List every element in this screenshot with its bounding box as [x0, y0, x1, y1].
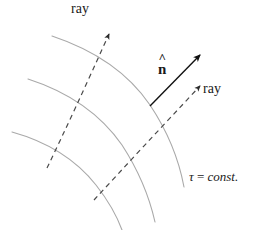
ray-label-top: ray [71, 2, 89, 16]
tau-surface-curve-3 [12, 132, 122, 230]
equals-sign: = [194, 169, 208, 184]
diagram-canvas [0, 0, 258, 230]
ray-dashed-2 [94, 86, 200, 200]
ray-label-right: ray [203, 82, 221, 96]
radiative-transfer-diagram: ray ray ^ n τ = const. [0, 0, 258, 230]
ray-dashed-1 [47, 34, 109, 168]
normal-vector-label: ^ n [158, 54, 166, 76]
tau-value: const. [208, 169, 239, 184]
tau-surface-curve-2 [28, 79, 155, 222]
normal-vector-symbol: n [158, 63, 166, 76]
ray-trajectories [47, 34, 200, 200]
tau-constant-label: τ = const. [189, 170, 238, 183]
